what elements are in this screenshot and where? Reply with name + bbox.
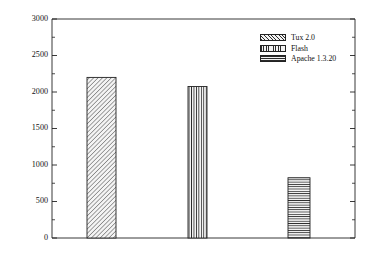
bar-tux — [87, 77, 116, 238]
legend-swatch-diagonal-hatch-icon — [260, 34, 286, 41]
legend-label: Apache 1.3.20 — [291, 54, 336, 63]
bar-apache — [288, 178, 310, 238]
legend-item-flash: Flash — [260, 44, 336, 53]
bar-flash — [188, 87, 207, 238]
legend-swatch-horizontal-lines-icon — [260, 55, 286, 62]
legend: Tux 2.0 Flash Apache 1.3.20 — [260, 33, 336, 65]
legend-item-tux: Tux 2.0 — [260, 33, 336, 42]
legend-item-apache: Apache 1.3.20 — [260, 54, 336, 63]
legend-label: Flash — [291, 44, 308, 53]
bars-group — [87, 77, 310, 238]
legend-label: Tux 2.0 — [291, 33, 315, 42]
bar-chart: Server Throughput in HTTP ops/sec 3000 2… — [0, 0, 375, 256]
legend-swatch-vertical-lines-icon — [260, 45, 286, 52]
